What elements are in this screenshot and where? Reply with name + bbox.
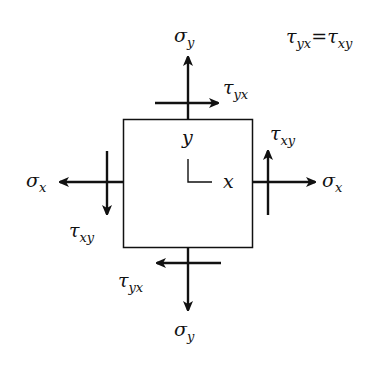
equation-label: τyx=τxy <box>286 27 352 50</box>
sigma-x-right-label: σx <box>322 171 342 194</box>
tau-yx-bottom-label: τyx <box>118 271 143 294</box>
tau-xy-right-label: τxy <box>270 124 295 147</box>
sigma-x-left-label: σx <box>26 171 46 194</box>
tau-xy-left-label: τxy <box>69 221 94 244</box>
tau-yx-top-label: τyx <box>223 78 248 101</box>
stress-element-diagram: σy τyx=τxy τyx τxy σx σx τxy τyx σy y x <box>0 0 391 366</box>
local-axes <box>188 159 212 182</box>
axis-x-label: x <box>223 172 234 191</box>
sigma-y-bottom-label: σy <box>174 320 194 343</box>
axis-y-label: y <box>182 128 193 147</box>
sigma-y-top-label: σy <box>174 26 194 49</box>
